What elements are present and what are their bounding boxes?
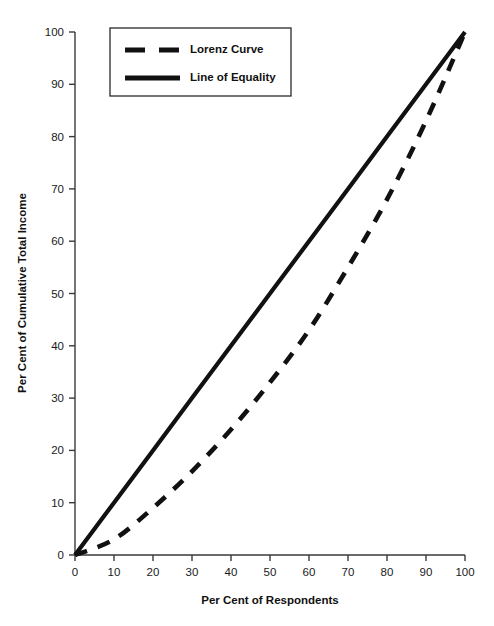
chart-canvas: 0102030405060708090100 01020304050607080… (0, 0, 494, 626)
y-tick-label: 90 (51, 78, 64, 90)
x-tick-label: 30 (186, 566, 199, 578)
data-series (75, 32, 465, 555)
x-tick-label: 100 (455, 566, 474, 578)
y-tick-label: 70 (51, 183, 64, 195)
legend-box (110, 28, 291, 96)
y-tick-label: 80 (51, 131, 64, 143)
x-tick-label: 0 (72, 566, 78, 578)
x-tick-label: 40 (225, 566, 238, 578)
x-tick-label: 10 (108, 566, 121, 578)
legend: Lorenz Curve Line of Equality (110, 28, 291, 96)
y-tick-label: 60 (51, 235, 64, 247)
y-tick-label: 100 (45, 26, 64, 38)
y-tick-label: 0 (58, 549, 64, 561)
legend-label-lorenz-curve: Lorenz Curve (190, 43, 264, 55)
y-tick-label: 30 (51, 392, 64, 404)
y-axis-title: Per Cent of Cumulative Total Income (16, 193, 28, 393)
y-tick-label: 50 (51, 288, 64, 300)
x-tick-label: 50 (264, 566, 277, 578)
x-tick-label: 20 (147, 566, 160, 578)
x-tick-label: 90 (420, 566, 433, 578)
x-axis-ticks: 0102030405060708090100 (72, 555, 475, 578)
series-line-of-equality (75, 32, 465, 555)
x-tick-label: 60 (303, 566, 316, 578)
lorenz-curve-chart: 0102030405060708090100 01020304050607080… (0, 0, 494, 626)
y-tick-label: 40 (51, 340, 64, 352)
legend-label-line-of-equality: Line of Equality (190, 71, 276, 83)
x-axis-title: Per Cent of Respondents (201, 594, 338, 606)
y-axis-ticks: 0102030405060708090100 (45, 26, 75, 561)
y-tick-label: 20 (51, 444, 64, 456)
x-tick-label: 70 (342, 566, 355, 578)
y-tick-label: 10 (51, 497, 64, 509)
x-tick-label: 80 (381, 566, 394, 578)
